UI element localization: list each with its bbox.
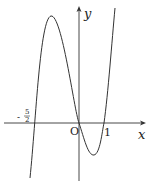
y-axis-label: y [83, 6, 92, 21]
x-axis-label: x [138, 127, 146, 142]
tick-label-neg-sign: - [17, 112, 20, 122]
cubic-curve [30, 8, 115, 178]
tick-label-neg-root-denominator: 2 [25, 116, 29, 124]
function-graph: y x O 1 - 5 2 [0, 0, 149, 181]
tick-label-one: 1 [104, 126, 111, 139]
tick-label-neg-root-numerator: 5 [25, 108, 29, 116]
origin-label: O [70, 125, 79, 138]
